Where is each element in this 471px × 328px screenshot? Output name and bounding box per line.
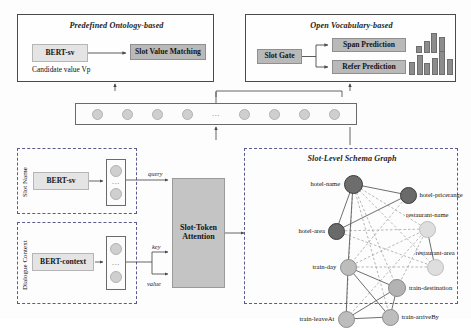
graph-node-label-train-destination: train-destination [409, 284, 452, 291]
graph-node-train-leaveAt[interactable] [338, 311, 355, 328]
graph-node-label-hotel-pricerange: hotel-pricerange [420, 191, 463, 198]
graph-node-label-restaurant-name: restaurant-name [406, 211, 448, 218]
graph-node-train-destination[interactable] [388, 279, 406, 297]
graph-node-label-train-day: train-day [313, 263, 337, 270]
graph-node-hotel-name[interactable] [344, 175, 363, 194]
graph-node-label-hotel-name: hotel-name [311, 180, 341, 187]
schema-graph-nodes: hotel-namehotel-pricerangehotel-arearest… [245, 149, 459, 305]
graph-node-label-train-arriveBy: train-arriveBy [402, 313, 439, 320]
graph-node-restaurant-area[interactable] [427, 259, 444, 276]
graph-node-train-day[interactable] [340, 259, 357, 276]
graph-node-label-restaurant-area: restaurant-area [416, 249, 455, 256]
graph-node-restaurant-name[interactable] [419, 221, 436, 238]
graph-node-hotel-pricerange[interactable] [400, 187, 417, 204]
graph-node-train-arriveBy[interactable] [382, 309, 399, 326]
graph-node-hotel-area[interactable] [328, 223, 345, 240]
graph-node-label-hotel-area: hotel-area [299, 227, 325, 234]
graph-node-label-train-leaveAt: train-leaveAt [300, 315, 335, 322]
schema-graph-panel: Slot-Level Schema Graph hotel-namehotel-… [244, 148, 458, 304]
